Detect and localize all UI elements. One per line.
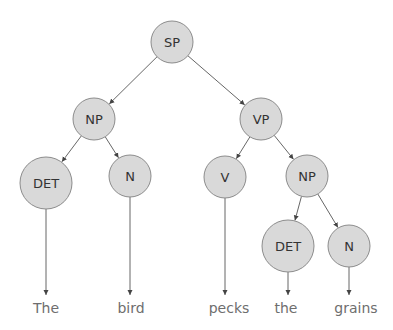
node-label: DET [275, 239, 301, 254]
node-det1: DET [20, 157, 72, 209]
node-label: NP [298, 169, 316, 184]
edge-vp-to-np2 [274, 135, 293, 159]
node-label: SP [164, 35, 180, 50]
parse-tree-diagram: SPNPVPDETNVNPDETN Thebirdpecksthegrains [0, 0, 393, 330]
node-label: V [221, 170, 230, 185]
edge-np1-to-n1 [105, 137, 118, 158]
node-sp: SP [151, 21, 193, 63]
edge-vp-to-v [236, 137, 250, 159]
edge-sp-to-vp [188, 56, 245, 105]
node-label: N [344, 239, 354, 254]
nodes-layer: SPNPVPDETNVNPDETN [20, 21, 370, 272]
words-layer: Thebirdpecksthegrains [32, 300, 378, 316]
node-n2: N [328, 225, 370, 267]
node-n1: N [109, 155, 151, 197]
node-det2: DET [262, 220, 314, 272]
word-grains: grains [334, 300, 377, 316]
node-np2: NP [286, 155, 328, 197]
edge-np2-to-n2 [318, 194, 338, 228]
node-label: VP [253, 112, 270, 127]
word-pecks: pecks [209, 300, 250, 316]
node-v: V [204, 156, 246, 198]
node-label: NP [85, 112, 103, 127]
node-vp: VP [240, 98, 282, 140]
word-the: the [275, 300, 298, 316]
node-label: DET [33, 176, 59, 191]
word-bird: bird [117, 300, 144, 316]
edge-np2-to-det2 [295, 196, 302, 220]
node-np1: NP [73, 98, 115, 140]
edges-layer [62, 56, 338, 228]
edge-sp-to-np1 [109, 57, 157, 104]
word-the: The [32, 300, 59, 316]
edge-np1-to-det1 [62, 136, 82, 162]
node-label: N [125, 169, 135, 184]
